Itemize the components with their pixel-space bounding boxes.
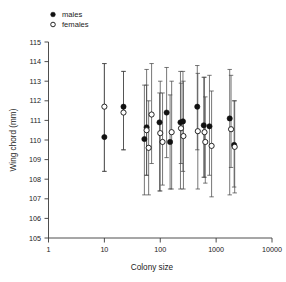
- x-tick-label: 10000: [262, 245, 282, 254]
- data-point-female: [232, 144, 237, 149]
- data-point-female: [178, 126, 183, 131]
- y-axis-title: Wing chord (mm): [9, 108, 18, 171]
- data-point-female: [181, 133, 186, 138]
- x-tick-label: 10: [100, 245, 108, 254]
- data-point-female: [121, 110, 126, 115]
- legend-label-males: males: [62, 10, 82, 19]
- data-point-female: [102, 104, 107, 109]
- x-tick-label: 100: [154, 245, 166, 254]
- data-point-female: [209, 143, 214, 148]
- y-tick-label: 112: [30, 96, 41, 105]
- legend-marker-females: [51, 22, 56, 27]
- data-point-female: [149, 112, 154, 117]
- data-point-male: [164, 110, 169, 115]
- y-tick-label: 105: [29, 234, 41, 243]
- y-tick-label: 106: [29, 214, 41, 223]
- data-point-male: [167, 139, 172, 144]
- y-tick-label: 108: [29, 175, 41, 184]
- legend-label-females: females: [62, 20, 89, 29]
- x-tick-label: 1: [47, 245, 51, 254]
- data-point-female: [146, 145, 151, 150]
- data-point-female: [228, 127, 233, 132]
- y-tick-label: 115: [30, 38, 41, 47]
- y-tick-label: 109: [29, 155, 41, 164]
- wing-chord-scatter-figure: males females 10510610710810911011111211…: [0, 0, 286, 282]
- y-tick-label: 107: [29, 194, 41, 203]
- data-point-male: [102, 134, 107, 139]
- data-point-male: [142, 136, 147, 141]
- data-point-female: [144, 128, 149, 133]
- data-point-male: [157, 120, 162, 125]
- legend-marker-males: [51, 12, 56, 17]
- data-point-female: [160, 139, 165, 144]
- data-point-male: [180, 119, 185, 124]
- data-point-female: [158, 131, 163, 136]
- data-point-female: [203, 139, 208, 144]
- y-tick-label: 114: [30, 57, 41, 66]
- y-tick-label: 110: [30, 136, 41, 145]
- y-tick-label: 111: [30, 116, 41, 125]
- y-tick-label: 113: [30, 77, 41, 86]
- data-point-male: [121, 104, 126, 109]
- x-axis-title: Colony size: [131, 263, 174, 272]
- data-point-male: [227, 116, 232, 121]
- data-point-male: [201, 123, 206, 128]
- data-point-female: [202, 130, 207, 135]
- data-point-male: [207, 124, 212, 129]
- data-point-female: [169, 130, 174, 135]
- data-point-female: [195, 129, 200, 134]
- plot-canvas: males females 10510610710810911011111211…: [0, 0, 286, 282]
- x-tick-label: 1000: [208, 245, 224, 254]
- data-point-male: [195, 104, 200, 109]
